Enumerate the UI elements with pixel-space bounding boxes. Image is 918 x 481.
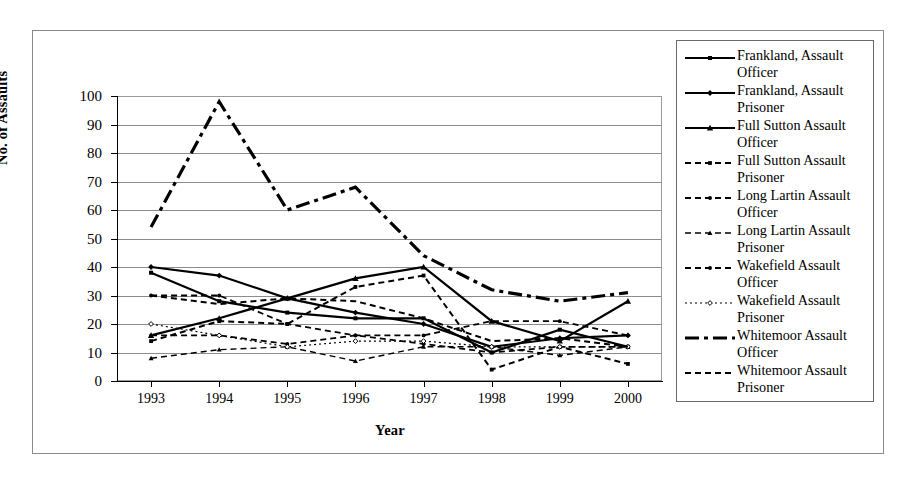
data-point-marker [149,333,153,337]
y-tick-20: 20 [111,324,117,325]
y-tick-label: 80 [87,146,102,161]
y-tick-label: 70 [87,174,102,189]
x-tick-label: 1994 [205,392,233,406]
legend-label: Frankland, Assault Prisoner [737,82,843,116]
legend-label: Long Lartin Assault Officer [737,187,851,221]
x-axis: 19931994199519961997199819992000 [117,381,663,382]
data-point-marker [490,351,494,355]
data-point-marker [353,333,357,337]
legend-item[interactable]: Whitemoor Assault Officer [683,327,869,361]
data-point-marker [149,271,153,275]
legend-label: Whitemoor Assault Prisoner [737,362,847,396]
legend-swatch-icon [683,364,737,381]
data-point-marker [353,310,359,316]
y-tick-90: 90 [111,125,117,126]
data-point-marker [421,321,427,327]
x-tick-label: 1993 [137,392,165,406]
data-point-marker [421,339,426,344]
legend-swatch-icon [683,329,737,346]
y-tick-label: 90 [87,117,102,132]
y-tick-label: 100 [80,89,103,104]
x-tick-1994: 1994 [219,381,220,387]
legend-item[interactable]: Whitemoor Assault Prisoner [683,362,869,396]
y-axis-title: No. of Assaults [0,71,11,165]
y-tick-label: 30 [87,288,102,303]
data-point-marker [490,368,494,372]
y-tick-label: 10 [87,345,102,360]
chart-legend: Frankland, Assault OfficerFrankland, Ass… [676,40,874,402]
legend-item[interactable]: Frankland, Assault Prisoner [683,82,869,116]
data-point-marker [422,274,426,278]
y-tick-100: 100 [111,96,117,97]
legend-item[interactable]: Wakefield Assault Prisoner [683,292,869,326]
x-tick-label: 1999 [546,392,574,406]
legend-label: Wakefield Assault Officer [737,257,840,291]
x-tick-1996: 1996 [355,381,356,387]
legend-label: Whitemoor Assault Officer [737,327,847,361]
legend-label: Full Sutton Assault Officer [737,117,846,151]
legend-label: Wakefield Assault Prisoner [737,292,840,326]
y-tick-label: 40 [87,260,102,275]
legend-item[interactable]: Wakefield Assault Officer [683,257,869,291]
y-tick-30: 30 [111,296,117,297]
x-tick-1993: 1993 [151,381,152,387]
x-tick-1995: 1995 [287,381,288,387]
legend-item[interactable]: Full Sutton Assault Officer [683,117,869,151]
legend-label: Frankland, Assault Officer [737,47,843,81]
data-point-marker [625,298,631,304]
data-point-marker [558,328,562,332]
data-point-marker [217,294,221,298]
legend-label: Long Lartin Assault Prisoner [737,222,851,256]
x-tick-label: 1995 [273,392,301,406]
x-tick-1999: 1999 [560,381,561,387]
data-point-marker [490,319,494,323]
data-point-marker [422,333,426,337]
data-point-marker [285,322,289,326]
legend-item[interactable]: Frankland, Assault Officer [683,47,869,81]
y-tick-label: 60 [87,203,102,218]
chart-figure: No. of Assaults 0102030405060708090100 1… [0,0,918,481]
data-point-marker [354,285,358,289]
legend-swatch-icon [683,224,737,241]
x-tick-label: 2000 [614,392,642,406]
legend-swatch-icon [683,294,737,311]
series-layer [117,96,662,381]
y-tick-50: 50 [111,239,117,240]
data-point-marker [148,264,154,270]
data-point-marker [353,316,357,320]
x-tick-1998: 1998 [492,381,493,387]
legend-swatch-icon [683,84,737,101]
legend-item[interactable]: Long Lartin Assault Officer [683,187,869,221]
x-tick-label: 1998 [478,392,506,406]
y-axis: 0102030405060708090100 [117,96,118,382]
series-line [151,102,628,302]
legend-swatch-icon [683,189,737,206]
data-point-marker [285,311,289,315]
legend-swatch-icon [683,154,737,171]
plot-area [117,96,662,381]
x-tick-1997: 1997 [424,381,425,387]
y-tick-label: 0 [95,374,103,389]
data-point-marker [558,319,562,323]
x-tick-label: 1997 [410,392,438,406]
y-tick-label: 20 [87,317,102,332]
legend-swatch-icon [683,259,737,276]
x-tick-label: 1996 [341,392,369,406]
y-tick-70: 70 [111,182,117,183]
data-point-marker [626,362,630,366]
y-tick-10: 10 [111,353,117,354]
legend-item[interactable]: Full Sutton Assault Prisoner [683,152,869,186]
legend-swatch-icon [683,119,737,136]
y-tick-label: 50 [87,231,102,246]
x-axis-title: Year [117,422,663,439]
data-point-marker [216,273,222,279]
data-point-marker [149,322,154,327]
legend-item[interactable]: Long Lartin Assault Prisoner [683,222,869,256]
legend-swatch-icon [683,49,737,66]
y-tick-60: 60 [111,210,117,211]
legend-label: Full Sutton Assault Prisoner [737,152,846,186]
data-point-marker [217,319,221,323]
data-point-marker [626,333,630,337]
data-point-marker [217,299,221,303]
y-tick-80: 80 [111,153,117,154]
